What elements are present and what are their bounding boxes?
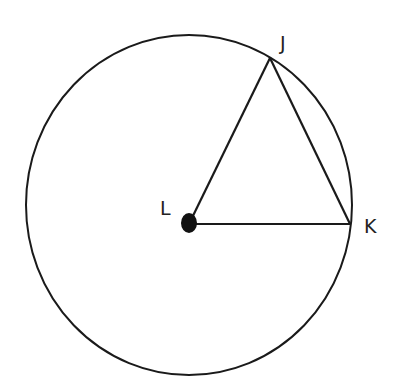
- center-point-L: [181, 213, 197, 233]
- label-K: K: [364, 215, 377, 237]
- label-L: L: [160, 197, 171, 219]
- label-J: J: [279, 32, 286, 54]
- segment-JK: [270, 58, 350, 224]
- segment-LJ: [189, 58, 270, 224]
- diagram-canvas: J L K: [0, 0, 400, 392]
- circle: [26, 35, 352, 375]
